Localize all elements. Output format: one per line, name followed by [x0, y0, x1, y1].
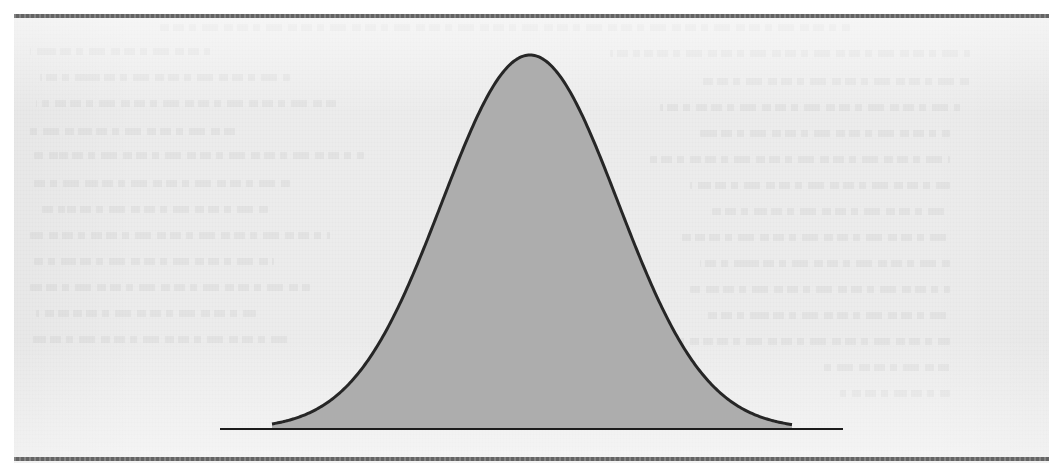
normal-distribution-chart: [14, 14, 1049, 463]
paper-surface: [14, 14, 1049, 463]
bottom-horizontal-rule: [14, 457, 1049, 461]
top-horizontal-rule: [14, 14, 1049, 18]
scanned-page: [0, 0, 1049, 469]
curve-shaded-area: [272, 55, 792, 429]
chart-plot-area: [220, 55, 843, 429]
bell-curve-figure: [14, 14, 1049, 463]
